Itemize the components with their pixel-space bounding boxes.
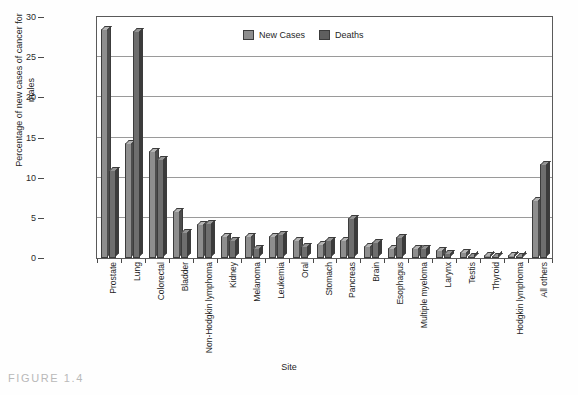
x-axis-label: Hodgkin lymphoma — [515, 262, 525, 335]
y-axis: Percentage of new cases of cancer for ma… — [0, 0, 96, 259]
figure-caption: FIGURE 1.4 — [8, 372, 84, 384]
x-axis-label: Stomach — [324, 262, 334, 296]
y-axis-tick-label: 30 — [16, 12, 36, 22]
y-axis-tick-mark — [38, 17, 44, 18]
figure-container: Percentage of new cases of cancer for ma… — [0, 0, 578, 395]
bar-side-face — [211, 220, 215, 257]
y-axis-tick-label: 5 — [16, 213, 36, 223]
bar-new-cases — [532, 200, 539, 258]
x-axis-tick-mark — [313, 259, 314, 263]
bar-side-face — [187, 229, 191, 257]
y-axis-tick-mark — [38, 97, 44, 98]
y-axis-tick-mark — [38, 218, 44, 219]
bar-side-face — [307, 243, 311, 257]
x-axis-label: Oral — [300, 262, 310, 278]
x-axis-tick-mark — [552, 259, 553, 263]
x-axis-tick-mark — [528, 259, 529, 263]
x-axis-label: Kidney — [228, 262, 238, 288]
bar-new-cases — [317, 244, 324, 258]
x-axis-label: Esophagus — [395, 262, 405, 305]
bar-new-cases — [364, 246, 371, 258]
x-axis-tick-mark — [97, 259, 98, 263]
x-axis-label: Lung — [132, 262, 142, 281]
bar-new-cases — [484, 255, 491, 258]
x-axis-label: Pancreas — [347, 262, 357, 298]
bar-deaths — [540, 164, 547, 258]
y-axis-tick-mark — [38, 138, 44, 139]
bar-side-face — [331, 237, 335, 257]
x-axis-label: Non-Hodgkin lymphoma — [204, 262, 214, 353]
legend-swatch-new-cases — [243, 30, 254, 40]
bar-new-cases — [125, 143, 132, 258]
y-axis-tick-label: 20 — [16, 92, 36, 102]
bar-deaths — [229, 240, 236, 258]
x-axis-tick-mark — [384, 259, 385, 263]
bar-side-face — [163, 156, 167, 257]
x-axis-label: Brain — [371, 262, 381, 282]
bar-deaths — [348, 218, 355, 258]
bar-deaths — [277, 234, 284, 258]
bar-deaths — [205, 223, 212, 258]
x-axis-tick-mark — [289, 259, 290, 263]
bar-side-face — [402, 234, 406, 257]
chart-legend: New Cases Deaths — [243, 30, 364, 40]
bar-side-face — [283, 231, 287, 257]
bar-deaths — [468, 256, 475, 258]
y-axis-tick-mark — [38, 57, 44, 58]
legend-item-deaths: Deaths — [319, 30, 364, 40]
x-axis-tick-mark — [169, 259, 170, 263]
x-axis-tick-mark — [360, 259, 361, 263]
bar-side-face — [450, 250, 454, 257]
x-axis-tick-mark — [217, 259, 218, 263]
x-axis-tick-mark — [265, 259, 266, 263]
bar-deaths — [420, 248, 427, 258]
y-axis-tick-label: 25 — [16, 52, 36, 62]
x-axis-tick-mark — [336, 259, 337, 263]
legend-item-new-cases: New Cases — [243, 30, 305, 40]
legend-label-deaths: Deaths — [335, 30, 364, 40]
bar-side-face — [235, 237, 239, 257]
bar-new-cases — [412, 248, 419, 258]
bars-layer — [97, 17, 552, 258]
bar-side-face — [426, 245, 430, 257]
y-axis-tick-mark — [38, 258, 44, 259]
bar-deaths — [109, 170, 116, 258]
x-axis-title: Site — [0, 362, 578, 372]
x-axis-tick-mark — [241, 259, 242, 263]
x-axis-tick-mark — [456, 259, 457, 263]
x-axis-tick-mark — [121, 259, 122, 263]
bar-new-cases — [460, 252, 467, 258]
bar-deaths — [396, 237, 403, 258]
bar-new-cases — [508, 255, 515, 258]
x-axis-label: All others — [539, 262, 549, 297]
x-axis-label: Bladder — [180, 262, 190, 291]
x-axis-tick-mark — [480, 259, 481, 263]
bar-new-cases — [388, 248, 395, 258]
bar-deaths — [325, 240, 332, 258]
x-axis-label: Multiple myeloma — [419, 262, 429, 328]
bar-new-cases — [221, 236, 228, 258]
x-axis-label: Thyroid — [491, 262, 501, 290]
x-axis-tick-mark — [193, 259, 194, 263]
bar-new-cases — [101, 29, 108, 258]
bar-deaths — [492, 256, 499, 258]
y-axis-tick-label: 10 — [16, 173, 36, 183]
x-axis-label: Prostate — [108, 262, 118, 294]
legend-label-new-cases: New Cases — [259, 30, 305, 40]
y-axis-title: Percentage of new cases of cancer for ma… — [13, 5, 37, 175]
bar-side-face — [378, 239, 382, 257]
bar-side-face — [139, 28, 143, 257]
bar-new-cases — [197, 224, 204, 258]
x-axis-label: Larynx — [443, 262, 453, 288]
bar-deaths — [157, 159, 164, 258]
x-axis-label: Colorectal — [156, 262, 166, 300]
bar-deaths — [372, 242, 379, 258]
bar-deaths — [444, 253, 451, 258]
bar-side-face — [546, 161, 550, 257]
x-axis-label: Testis — [467, 262, 477, 284]
bar-new-cases — [149, 151, 156, 258]
bar-new-cases — [293, 240, 300, 258]
bar-deaths — [181, 232, 188, 258]
x-axis-tick-mark — [432, 259, 433, 263]
bar-new-cases — [340, 240, 347, 258]
